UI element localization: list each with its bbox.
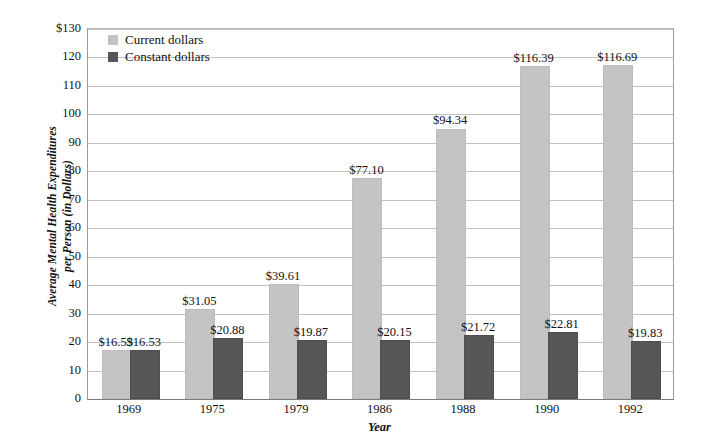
bar-group: $77.10$20.15 [339,29,423,399]
y-axis-tick-label: 10 [35,364,81,376]
bar-constant-1975[interactable] [213,338,243,399]
y-axis-tick-label: 120 [35,50,81,62]
bar-constant-1992[interactable] [631,341,661,399]
bar-value-label: $31.05 [168,295,230,308]
legend-label-constant: Constant dollars [125,50,210,64]
y-axis-tick-label: 20 [35,335,81,347]
bar-value-label: $20.88 [196,324,258,337]
y-axis-tick-label: 110 [35,79,81,91]
bar-current-1979[interactable] [269,284,299,399]
bar-value-label: $77.10 [336,164,398,177]
bar-current-1986[interactable] [352,178,382,399]
y-axis-tick-label: 0 [35,392,81,404]
bar-value-label: $19.83 [614,327,676,340]
bar-constant-1990[interactable] [548,332,578,399]
y-axis-tick-label: 60 [35,221,81,233]
y-axis-tick-label: $130 [35,22,81,34]
legend-swatch-icon-current [108,35,118,45]
y-axis-tick-label: 30 [35,307,81,319]
bar-group: $39.61$19.87 [255,29,339,399]
bar-group: $16.53$16.53 [88,29,172,399]
bar-value-label: $94.34 [419,114,481,127]
bar-group: $31.05$20.88 [172,29,256,399]
y-axis-tick-label: 50 [35,250,81,262]
legend-item-current-dollars: Current dollars [108,31,268,48]
x-axis-tick-label-1979: 1979 [266,402,326,416]
x-axis-tick-label-1986: 1986 [350,402,410,416]
x-axis-title: Year [87,420,672,435]
bar-value-label: $22.81 [531,318,593,331]
legend-label-current: Current dollars [125,33,203,47]
bar-value-label: $20.15 [363,326,425,339]
x-axis-tick-label-1975: 1975 [182,402,242,416]
bar-value-label: $116.39 [503,52,565,65]
bar-value-label: $116.69 [586,51,648,64]
bar-current-1988[interactable] [436,129,466,400]
bar-constant-1979[interactable] [297,340,327,399]
bar-value-label: $16.53 [113,336,175,349]
bar-constant-1988[interactable] [464,335,494,399]
x-axis-tick-label-1969: 1969 [99,402,159,416]
bar-constant-1969[interactable] [130,350,160,399]
legend-item-constant-dollars: Constant dollars [108,48,268,65]
bar-current-1990[interactable] [520,66,550,399]
bar-group: $94.34$21.72 [422,29,506,399]
bar-group: $116.69$19.83 [589,29,673,399]
bar-constant-1986[interactable] [380,340,410,399]
bar-value-label: $19.87 [280,326,342,339]
y-axis-tick-label: 100 [35,107,81,119]
chart-figure: Average Mental Health Expenditures per P… [0,0,703,447]
bar-current-1969[interactable] [102,350,132,399]
bar-value-label: $21.72 [447,321,509,334]
y-axis-tick-label: 90 [35,136,81,148]
x-axis-tick-label-1992: 1992 [600,402,660,416]
x-axis-tick-label-1990: 1990 [517,402,577,416]
y-axis-tick-label: 80 [35,164,81,176]
x-axis-tick-label-1988: 1988 [433,402,493,416]
y-axis-tick-label: 40 [35,278,81,290]
bar-value-label: $39.61 [252,270,314,283]
bar-group: $116.39$22.81 [506,29,590,399]
y-axis-tick-label: 70 [35,193,81,205]
y-axis-tick-labels: 0102030405060708090100110120$130 [33,28,81,398]
x-axis-tick-labels: 1969197519791986198819901992 [87,402,672,420]
bar-current-1992[interactable] [603,65,633,399]
legend-swatch-icon-constant [108,52,118,62]
chart-legend: Current dollars Constant dollars [108,31,268,65]
plot-area: $16.53$16.53$31.05$20.88$39.61$19.87$77.… [87,28,674,400]
